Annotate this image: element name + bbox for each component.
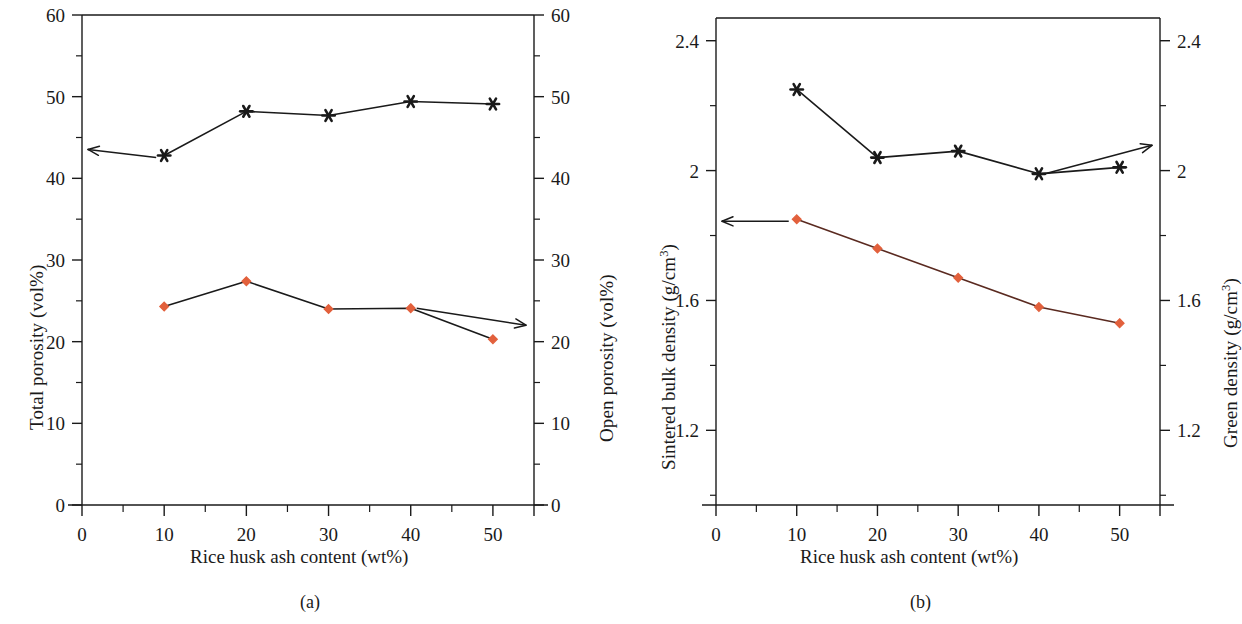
panel-b-left-axis-title-main: Sintered bulk density (g/cm [658,257,679,470]
y2-tick-label: 2.4 [1177,31,1201,52]
y2-tick-label: 30 [551,250,570,271]
x-tick-label: 50 [1110,524,1129,545]
data-point-star [1113,162,1125,173]
plot-b: 1.21.21.61.6222.42.401020304050 [620,0,1240,624]
y-tick-label: 50 [46,87,65,108]
data-point-diamond [954,273,963,282]
left-axis-pointer-arrow [88,149,156,157]
data-point-star [158,150,170,161]
y-tick-label: 40 [46,168,65,189]
x-tick-label: 0 [711,524,721,545]
panel-a-caption: (a) [300,592,320,613]
panel-b-left-axis-title-tail: ) [658,244,679,250]
panel-b-x-axis-title: Rice husk ash content (wt%) [800,546,1018,568]
data-point-diamond [324,305,333,314]
y2-tick-label: 50 [551,87,570,108]
series-line [797,219,1120,323]
panel-b-left-axis-title-superscript: 3 [657,250,671,256]
y-tick-label: 2.4 [675,31,699,52]
x-tick-label: 40 [1029,524,1048,545]
data-point-star [1033,168,1045,179]
y2-tick-label: 10 [551,413,570,434]
x-tick-label: 40 [401,524,420,545]
y2-tick-label: 1.6 [1177,290,1201,311]
panel-a-right-axis-title: Open porosity (vol%) [596,274,618,442]
data-point-diamond [160,302,169,311]
x-tick-label: 20 [868,524,887,545]
x-tick-label: 0 [77,524,87,545]
x-tick-label: 20 [237,524,256,545]
data-point-star [405,96,417,107]
data-point-diamond [1115,319,1124,328]
y-tick-label: 60 [46,5,65,26]
y-tick-label: 0 [56,495,66,516]
x-tick-label: 30 [319,524,338,545]
series-line [164,102,493,156]
panel-b-caption: (b) [910,592,931,613]
panel-b-right-axis-title-main: Green density (g/cm [1220,291,1241,448]
panel-b-right-axis-title: Green density (g/cm3) [1220,278,1242,448]
y2-tick-label: 1.2 [1177,420,1201,441]
data-point-diamond [242,277,251,286]
data-point-diamond [792,215,801,224]
panel-b-right-axis-title-tail: ) [1220,278,1241,284]
plot-a: 0010102020303040405050606001020304050 [0,0,620,624]
y-tick-label: 20 [46,332,65,353]
y2-tick-label: 0 [551,495,561,516]
panel-b: 1.21.21.61.6222.42.401020304050 Sintered… [620,0,1240,624]
x-tick-label: 10 [155,524,174,545]
data-point-star [322,110,334,121]
data-point-star [487,99,499,110]
data-point-star [952,146,964,157]
panel-b-right-axis-title-superscript: 3 [1219,285,1233,291]
data-point-diamond [873,244,882,253]
data-point-star [240,106,252,117]
data-point-diamond [489,335,498,344]
y2-tick-label: 20 [551,332,570,353]
y2-tick-label: 60 [551,5,570,26]
data-point-diamond [1035,303,1044,312]
panel-a-x-axis-title: Rice husk ash content (wt%) [190,546,408,568]
y-tick-label: 2 [690,161,700,182]
data-point-diamond [406,304,415,313]
x-tick-label: 10 [787,524,806,545]
y2-tick-label: 2 [1177,161,1187,182]
y-tick-label: 10 [46,413,65,434]
y2-tick-label: 40 [551,168,570,189]
y-tick-label: 30 [46,250,65,271]
x-tick-label: 50 [483,524,502,545]
panel-a: 0010102020303040405050606001020304050 To… [0,0,620,624]
series-line [797,89,1120,173]
panel-a-left-axis-title: Total porosity (vol%) [26,265,48,430]
panel-b-left-axis-title: Sintered bulk density (g/cm3) [658,244,680,470]
x-tick-label: 30 [949,524,968,545]
